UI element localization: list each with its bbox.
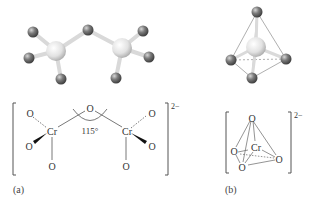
oxygen-atom: [138, 26, 149, 37]
oxygen-atom: [247, 73, 258, 84]
oxygen-atom: [252, 7, 263, 18]
panel-b-label: (b): [225, 184, 237, 196]
panel-a-label: (a): [13, 184, 24, 196]
chromium-atom: [46, 41, 66, 61]
chromium-right-label: Cr: [122, 126, 133, 137]
oxygen-right-top-label: O: [148, 108, 155, 119]
chromium-atoms: [46, 38, 132, 61]
oxygen-atom: [226, 55, 237, 66]
oxygen-atom: [24, 53, 35, 64]
oxygen-atom: [144, 52, 155, 63]
oxygen-atom: [56, 74, 67, 85]
charge-label: 2−: [294, 111, 303, 120]
bond-angle-label: 115°: [82, 126, 99, 136]
chromate-ball-and-stick-model: [226, 7, 292, 84]
chromium-atom: [246, 37, 266, 57]
oxygen-atom: [28, 27, 39, 38]
chromium-atom: [112, 38, 132, 58]
oxygen-atom: [281, 54, 292, 65]
right-bracket: [288, 112, 291, 173]
oxygen-right-label: O: [275, 154, 282, 165]
bridging-oxygen-atom: [83, 25, 94, 36]
chromium-label: Cr: [251, 142, 262, 153]
oxygen-left-label: O: [230, 146, 237, 157]
left-bracket: [13, 103, 16, 175]
dichromate-ball-and-stick-model: [24, 25, 155, 85]
left-bracket: [226, 112, 229, 173]
oxygen-right-bottom-label: O: [122, 161, 129, 172]
dichromate-structural-formula: O Cr Cr O O O O O O 115° 2−: [13, 102, 180, 175]
chromium-left-label: Cr: [47, 126, 58, 137]
wedge-bond: [131, 133, 147, 144]
oxygen-top-label: O: [248, 113, 255, 124]
oxygen-left-top-label: O: [26, 108, 33, 119]
oxygen-left-wedge-label: O: [25, 141, 32, 152]
chromium-oxide-figure: O Cr Cr O O O O O O 115° 2− (a): [0, 0, 323, 205]
oxygen-atom: [111, 73, 122, 84]
right-bracket: [165, 103, 168, 175]
oxygen-bottom-label: O: [238, 162, 245, 173]
wedge-bond: [33, 133, 47, 144]
charge-label: 2−: [171, 102, 180, 111]
oxygen-left-bottom-label: O: [48, 161, 55, 172]
oxygen-right-wedge-label: O: [148, 141, 155, 152]
bridge-oxygen-label: O: [86, 103, 93, 114]
chromate-structural-formula: O Cr O O O 2−: [226, 111, 303, 173]
